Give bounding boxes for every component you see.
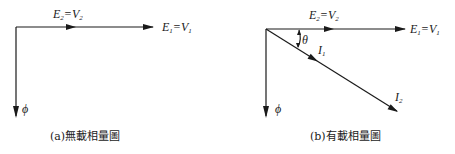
phi-arrowhead-icon (13, 106, 19, 118)
e1-v1-label: E1=V1 (409, 22, 440, 37)
theta-label: θ (302, 33, 308, 47)
e2-v2-label: E2=V2 (308, 8, 339, 23)
theta-arrowhead-bottom-icon (296, 43, 300, 48)
diagram-a-no-load: E2=V2 E1=V1 ϕ (a)無載相量圖 (13, 7, 192, 143)
phasor-diagrams: E2=V2 E1=V1 ϕ (a)無載相量圖 E2=V2 E1=V1 θ I1 (0, 0, 455, 154)
caption-b: (b)有載相量圖 (310, 129, 381, 143)
phi-label: ϕ (22, 102, 28, 116)
current-phasor-line (266, 29, 397, 111)
i2-label: I2 (394, 90, 403, 105)
phi-label: ϕ (275, 102, 281, 116)
e1-arrowhead-icon (143, 24, 154, 30)
diagram-b-load: E2=V2 E1=V1 θ I1 I2 ϕ (b)有載相量圖 (263, 8, 440, 143)
caption-a: (a)無載相量圖 (50, 129, 120, 143)
phi-arrowhead-icon (263, 106, 269, 118)
e2-arrowhead-icon (66, 24, 76, 30)
theta-arrowhead-top-icon (297, 30, 301, 35)
i1-label: I1 (317, 43, 326, 58)
i1-arrowhead-icon (308, 54, 319, 62)
e2-v2-label: E2=V2 (52, 7, 83, 22)
e1-arrowhead-icon (395, 26, 406, 32)
e2-arrowhead-icon (324, 26, 334, 32)
e1-v1-label: E1=V1 (161, 20, 192, 35)
